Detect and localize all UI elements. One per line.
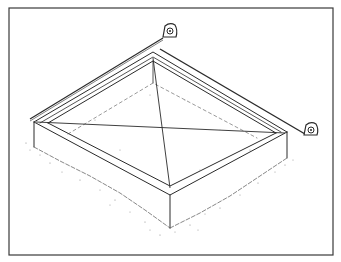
tape-measure-right <box>304 123 318 135</box>
outer-frame-border <box>9 8 333 255</box>
tape-measure-left <box>163 24 177 37</box>
diagonal-line-2 <box>36 122 285 133</box>
illustration <box>0 0 341 262</box>
diagonal-line-1 <box>153 58 170 188</box>
square-form-box <box>34 52 287 228</box>
